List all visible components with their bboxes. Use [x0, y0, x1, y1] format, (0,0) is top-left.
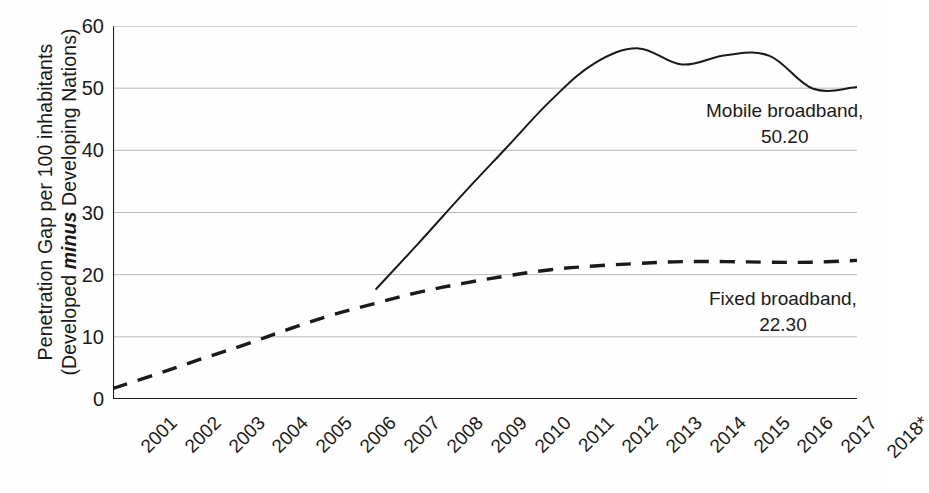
- x-tick-label: 2011: [574, 412, 618, 456]
- gridlines: [113, 26, 857, 399]
- x-tick-label: 2010: [530, 412, 575, 457]
- y-tick-label: 10: [60, 327, 104, 347]
- series-annotation-mobile: Mobile broadband, 50.20: [706, 98, 863, 149]
- x-tick-label: 2003: [224, 412, 269, 457]
- x-tick-label: 2015: [749, 412, 794, 457]
- x-tick-label: 2005: [311, 412, 356, 457]
- y-tick-label: 30: [60, 203, 104, 223]
- x-tick-label: 2012: [618, 412, 663, 457]
- x-tick-label: 2007: [399, 412, 444, 457]
- x-tick-label: 2013: [662, 412, 707, 457]
- x-tick-label: 2004: [268, 412, 313, 457]
- y-tick-label: 40: [60, 140, 104, 160]
- x-tick-label: 2008: [443, 412, 488, 457]
- series-annotation-mobile-value: 50.20: [706, 124, 863, 150]
- series-annotation-mobile-label: Mobile broadband,: [706, 100, 863, 121]
- x-tick-label: 2014: [705, 412, 750, 457]
- y-tick-label: 50: [60, 78, 104, 98]
- series-annotation-fixed-label: Fixed broadband,: [709, 288, 857, 309]
- series-line-mobile-broadband: [376, 48, 857, 289]
- chart-canvas: [113, 26, 857, 399]
- series-annotation-fixed-value: 22.30: [709, 312, 857, 338]
- x-tick-label: 2009: [486, 412, 531, 457]
- x-tick-label: 2006: [355, 412, 400, 457]
- y-tick-label: 60: [60, 16, 104, 36]
- y-tick-label: 0: [60, 389, 104, 409]
- series-annotation-fixed: Fixed broadband, 22.30: [709, 286, 857, 337]
- x-tick-label: 2002: [180, 412, 225, 457]
- plot-area: [113, 26, 857, 399]
- x-tick-label: 2016: [793, 412, 838, 457]
- x-tick-label: 2001: [136, 412, 181, 457]
- x-tick-label: 2017: [837, 412, 882, 457]
- x-tick-label: 2018*: [883, 412, 929, 463]
- y-tick-label: 20: [60, 265, 104, 285]
- y-axis-tick-labels: 0102030405060: [52, 0, 104, 493]
